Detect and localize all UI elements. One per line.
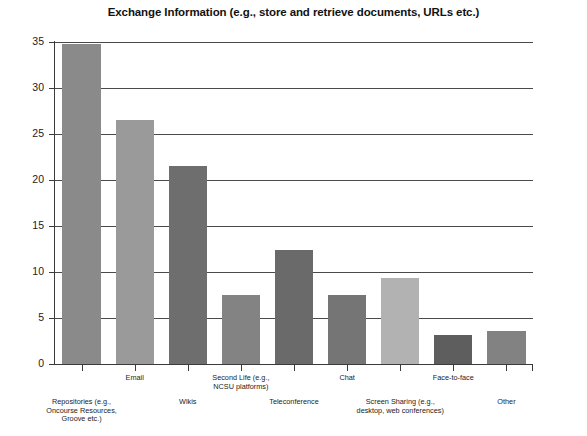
y-axis-tick-label: 10	[8, 265, 44, 277]
chart-title: Exchange Information (e.g., store and re…	[0, 6, 587, 18]
x-axis-category-label: Chat	[295, 374, 399, 383]
x-axis-category-label: Repositories (e.g.,Oncourse Resources,Gr…	[30, 398, 134, 424]
y-axis-tick-label: 5	[8, 311, 44, 323]
bar	[222, 295, 260, 364]
x-axis-tick-mark	[82, 365, 83, 371]
x-axis-category-label: Teleconference	[242, 398, 346, 407]
y-axis-tick-label: 0	[8, 357, 44, 369]
bar-chart: Exchange Information (e.g., store and re…	[0, 0, 587, 436]
x-axis-tick-mark	[294, 365, 295, 371]
x-axis-tick-mark	[347, 365, 348, 371]
x-axis-category-label: Face-to-face	[401, 374, 505, 383]
x-axis-category-label: Email	[83, 374, 187, 383]
y-axis-tick-label: 15	[8, 219, 44, 231]
x-axis-category-label: Wikis	[136, 398, 240, 407]
bar	[116, 120, 154, 364]
bar	[434, 335, 472, 364]
bar	[328, 295, 366, 364]
x-axis-tick-mark	[188, 365, 189, 371]
x-axis-tick-mark	[241, 365, 242, 371]
bar	[169, 166, 207, 364]
x-axis-tick-mark	[135, 365, 136, 371]
x-axis-category-label: Screen Sharing (e.g.,desktop, web confer…	[348, 398, 452, 415]
y-axis-tick-label: 20	[8, 173, 44, 185]
x-axis-category-label: Second Life (e.g.,NCSU platforms)	[189, 374, 293, 391]
bar	[381, 278, 419, 364]
y-axis-tick-label: 25	[8, 127, 44, 139]
bar	[62, 44, 100, 364]
bar	[275, 250, 313, 364]
x-axis-tick-mark	[506, 365, 507, 371]
y-axis-tick-label: 30	[8, 81, 44, 93]
x-axis-end-tick	[532, 365, 533, 371]
y-axis-tick-label: 35	[8, 35, 44, 47]
x-axis-tick-mark	[400, 365, 401, 371]
bar	[487, 331, 525, 364]
x-axis-category-label: Other	[454, 398, 558, 407]
x-axis-tick-mark	[453, 365, 454, 371]
plot-area	[55, 42, 533, 364]
